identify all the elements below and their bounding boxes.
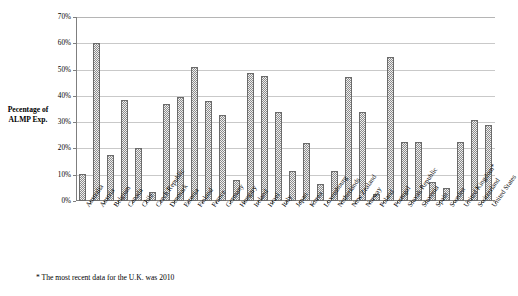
- bar: [261, 76, 268, 201]
- y-tick-label: 10%: [43, 171, 71, 179]
- bar: [93, 43, 100, 201]
- y-tick-label: 0%: [43, 197, 71, 205]
- bar: [191, 67, 198, 201]
- bar: [387, 57, 394, 201]
- chart-footnote: * The most recent data for the U.K. was …: [36, 273, 174, 283]
- x-axis-category-labels: AustraliaAustriaBelgiumCanadaChileCzech …: [76, 204, 501, 266]
- y-tick-label: 70%: [43, 13, 71, 21]
- bar: [247, 73, 254, 201]
- y-tick-label: 50%: [43, 66, 71, 74]
- y-tick-mark: [73, 201, 76, 202]
- y-tick-label: 60%: [43, 39, 71, 47]
- y-tick-label: 40%: [43, 92, 71, 100]
- bar: [275, 112, 282, 201]
- y-axis-title-line1: Pecentage of: [2, 105, 54, 115]
- y-tick-label: 30%: [43, 118, 71, 126]
- y-tick-label: 20%: [43, 144, 71, 152]
- bar: [79, 174, 86, 201]
